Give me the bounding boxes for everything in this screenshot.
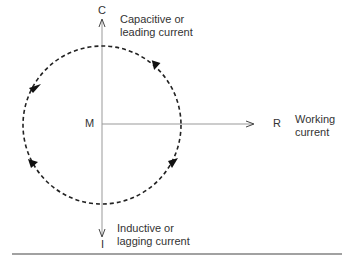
inductive-label: Inductive or lagging current <box>117 222 190 248</box>
axis-label-r: R <box>273 117 281 129</box>
arrowhead-icon <box>28 159 38 168</box>
axis-label-m: M <box>85 117 94 129</box>
axis-label-c: C <box>98 4 106 16</box>
axis-label-i: I <box>101 238 104 250</box>
capacitive-label: Capacitive or leading current <box>120 13 193 39</box>
working-label: Working current <box>295 113 335 139</box>
